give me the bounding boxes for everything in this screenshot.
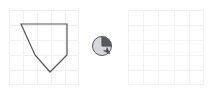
canvas-grid-left xyxy=(9,10,79,85)
grid-border xyxy=(10,11,79,85)
app-root xyxy=(0,0,213,94)
grid-border xyxy=(129,11,204,85)
drawing-canvas-right[interactable] xyxy=(128,10,204,85)
canvas-grid-right xyxy=(128,10,204,85)
pie-wedge-icon xyxy=(102,37,112,47)
drawing-canvas-left[interactable] xyxy=(9,10,79,85)
pie-chart-icon xyxy=(93,37,112,56)
arrow-pointer-icon xyxy=(104,47,111,54)
pie-chart-cursor xyxy=(93,37,112,56)
